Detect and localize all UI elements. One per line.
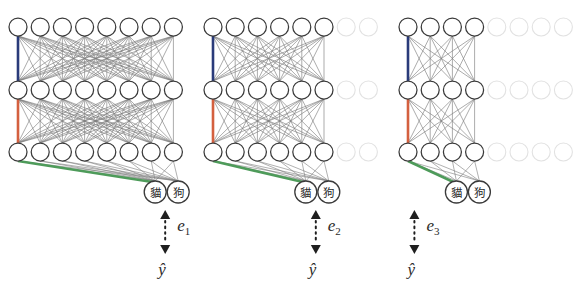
class-node-label-dog: 狗 <box>173 186 184 200</box>
unit-row3 <box>53 143 71 161</box>
pruned-unit-row2 <box>510 81 528 99</box>
class-node-label-cat: 貓 <box>150 186 161 200</box>
prediction-label-1: ŷ <box>158 260 166 280</box>
arrow-up-head <box>311 210 321 219</box>
unit-row3 <box>31 143 49 161</box>
pruned-unit-row2 <box>359 81 377 99</box>
unit-row3 <box>421 143 439 161</box>
unit-row3 <box>271 143 289 161</box>
unit-row2 <box>164 81 182 99</box>
error-label-symbol: e <box>426 216 434 235</box>
unit-row1 <box>248 18 266 36</box>
unit-row3 <box>142 143 160 161</box>
unit-row3 <box>315 143 333 161</box>
network-panel-2: 貓狗 <box>204 18 377 254</box>
arrow-down-head <box>409 245 419 254</box>
unit-row2 <box>443 81 461 99</box>
unit-row1 <box>204 18 222 36</box>
edge <box>235 161 306 181</box>
unit-row1 <box>226 18 244 36</box>
unit-row1 <box>120 18 138 36</box>
unit-row3 <box>443 143 461 161</box>
unit-row3 <box>204 143 222 161</box>
unit-row1 <box>421 18 439 36</box>
pruned-unit-row3 <box>337 143 355 161</box>
error-label-subscript: 3 <box>434 225 440 237</box>
unit-row1 <box>142 18 160 36</box>
unit-row2 <box>31 81 49 99</box>
unit-row1 <box>76 18 94 36</box>
pruned-unit-row1 <box>337 18 355 36</box>
unit-row2 <box>53 81 71 99</box>
unit-row1 <box>399 18 417 36</box>
unit-row2 <box>9 81 27 99</box>
unit-row3 <box>226 143 244 161</box>
pruned-unit-row3 <box>532 143 550 161</box>
arrow-up-head <box>160 210 170 219</box>
edge-group-layer-2 <box>18 99 173 143</box>
edge-group-layer-2 <box>408 99 475 143</box>
pruned-unit-row1 <box>532 18 550 36</box>
unit-row1 <box>98 18 116 36</box>
unit-row1 <box>9 18 27 36</box>
pruned-unit-row2 <box>488 81 506 99</box>
unit-row2 <box>204 81 222 99</box>
figure-canvas: 貓狗貓狗貓狗 e1ŷe2ŷe3ŷ <box>0 0 581 294</box>
pruned-unit-row2 <box>532 81 550 99</box>
pruned-unit-row1 <box>488 18 506 36</box>
prediction-label-3: ŷ <box>407 260 415 280</box>
unit-row3 <box>399 143 417 161</box>
unit-row3 <box>293 143 311 161</box>
edge-group-layer-2 <box>213 99 324 143</box>
error-label-1: e1 <box>177 216 190 237</box>
prediction-label-2: ŷ <box>309 260 317 280</box>
edge-group-layer-1 <box>18 36 173 81</box>
error-label-subscript: 2 <box>335 225 341 237</box>
network-panel-1: 貓狗 <box>9 18 189 254</box>
unit-row2 <box>76 81 94 99</box>
error-label-subscript: 1 <box>185 225 191 237</box>
class-node-label-cat: 貓 <box>300 186 311 200</box>
unit-row3 <box>76 143 94 161</box>
arrow-up-head <box>409 210 419 219</box>
unit-row1 <box>466 18 484 36</box>
unit-row1 <box>31 18 49 36</box>
unit-row2 <box>466 81 484 99</box>
unit-row3 <box>164 143 182 161</box>
pruned-unit-row3 <box>510 143 528 161</box>
unit-row2 <box>271 81 289 99</box>
unit-row2 <box>98 81 116 99</box>
class-node-label-dog: 狗 <box>474 186 485 200</box>
unit-row1 <box>443 18 461 36</box>
unit-row2 <box>421 81 439 99</box>
unit-row3 <box>9 143 27 161</box>
unit-row2 <box>315 81 333 99</box>
error-label-symbol: e <box>177 216 185 235</box>
pruned-unit-row3 <box>359 143 377 161</box>
unit-row2 <box>226 81 244 99</box>
unit-row3 <box>120 143 138 161</box>
pruned-unit-row1 <box>554 18 572 36</box>
unit-row2 <box>142 81 160 99</box>
arrow-down-head <box>311 245 321 254</box>
pruned-unit-row3 <box>488 143 506 161</box>
unit-row3 <box>466 143 484 161</box>
unit-row2 <box>248 81 266 99</box>
unit-row1 <box>164 18 182 36</box>
arrow-down-head <box>160 245 170 254</box>
edge-group-layer-1 <box>408 36 475 81</box>
network-diagram-svg: 貓狗貓狗貓狗 <box>0 0 581 294</box>
network-panel-3: 貓狗 <box>399 18 572 254</box>
pruned-unit-row1 <box>359 18 377 36</box>
class-node-label-dog: 狗 <box>323 186 334 200</box>
edge-group-layer-1 <box>213 36 324 81</box>
pruned-unit-row1 <box>510 18 528 36</box>
unit-row1 <box>315 18 333 36</box>
highlight-edge-output <box>213 161 303 182</box>
unit-row2 <box>293 81 311 99</box>
unit-row1 <box>53 18 71 36</box>
unit-row1 <box>271 18 289 36</box>
error-label-3: e3 <box>426 216 439 237</box>
pruned-unit-row3 <box>554 143 572 161</box>
unit-row3 <box>248 143 266 161</box>
